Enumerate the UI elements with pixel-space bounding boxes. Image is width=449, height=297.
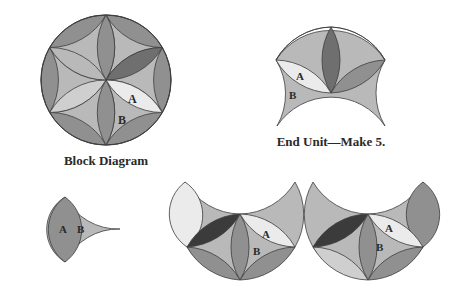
asm-left-label-b: B [253, 245, 261, 257]
end-label-a: A [296, 70, 304, 82]
block-diagram-caption: Block Diagram [64, 153, 148, 169]
piece-label-a: A [59, 223, 67, 235]
end-unit-caption: End Unit—Make 5. [277, 134, 386, 150]
block-label-b: B [118, 113, 126, 127]
piece-label-b: B [77, 223, 85, 235]
block-label-a: A [128, 92, 137, 106]
asm-left-label-a: A [262, 228, 270, 240]
assembly-right: A B [304, 182, 439, 280]
asm-right-label-a: A [385, 222, 393, 234]
assembly-left: A B [169, 182, 303, 280]
block-diagram: A B [41, 15, 171, 145]
piece-unit: A B [47, 197, 120, 262]
asm-right-label-b: B [376, 241, 384, 253]
end-unit: A B [276, 27, 385, 126]
end-label-b: B [289, 89, 297, 101]
